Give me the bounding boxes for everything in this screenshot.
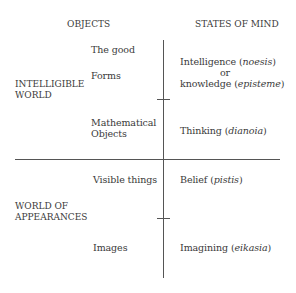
state-thinking: Thinking (dianoia) xyxy=(180,125,267,136)
state-intelligence-line: Intelligence (noesis) xyxy=(180,56,270,67)
object-mathematical-line2: Objects xyxy=(91,128,156,139)
world-label-intelligible-line1: INTELLIGIBLE xyxy=(15,79,84,90)
horizontal-divider-line xyxy=(15,159,280,160)
world-label-appearances: WORLD OF APPEARANCES xyxy=(15,201,87,223)
object-mathematical: Mathematical Objects xyxy=(91,117,156,139)
world-label-intelligible: INTELLIGIBLE WORLD xyxy=(15,79,84,101)
object-mathematical-line1: Mathematical xyxy=(91,117,156,128)
state-or: or xyxy=(180,67,270,78)
tick-mark-upper xyxy=(157,99,170,100)
state-imagining: Imagining (eikasia) xyxy=(180,242,271,253)
world-label-intelligible-line2: WORLD xyxy=(15,90,84,101)
world-label-appearances-line1: WORLD OF xyxy=(15,201,87,212)
header-objects: OBJECTS xyxy=(67,19,110,30)
object-the-good: The good xyxy=(91,44,135,55)
state-knowledge-line: knowledge (episteme) xyxy=(180,78,270,89)
state-intelligence: Intelligence (noesis) or knowledge (epis… xyxy=(180,56,270,89)
state-belief: Belief (pistis) xyxy=(180,174,243,185)
tick-mark-lower xyxy=(157,218,170,219)
header-states-of-mind: STATES OF MIND xyxy=(195,19,279,30)
object-images: Images xyxy=(93,242,127,253)
object-visible-things: Visible things xyxy=(93,174,157,185)
world-label-appearances-line2: APPEARANCES xyxy=(15,212,87,223)
object-forms: Forms xyxy=(91,70,121,81)
